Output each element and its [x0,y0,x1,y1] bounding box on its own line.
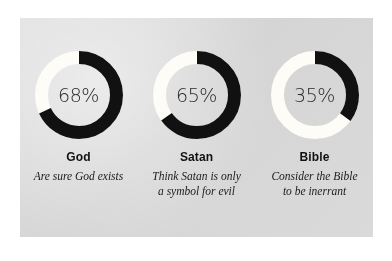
donut-description-line: to be inerrant [271,184,357,199]
donut-column-satan: 65% Satan Think Satan is only a symbol f… [138,18,255,199]
donut-description-line: Consider the Bible [271,169,357,184]
donut-description-line: a symbol for evil [152,184,241,199]
donut-label-satan: Satan [180,151,213,164]
donut-description-god: Are sure God exists [34,169,124,184]
donut-percent-bible: 35% [271,51,359,139]
donut-percent-god: 68% [35,51,123,139]
donut-description-line: Think Satan is only [152,169,241,184]
donut-description-satan: Think Satan is only a symbol for evil [152,169,241,198]
donut-label-god: God [66,151,90,164]
donut-percent-satan: 65% [153,51,241,139]
donut-description-line: Are sure God exists [34,169,124,184]
donut-chart-god: 68% [35,51,123,139]
donut-label-bible: Bible [300,151,330,164]
donut-chart-satan: 65% [153,51,241,139]
donut-columns: 68% God Are sure God exists 65% Satan Th… [20,18,373,237]
donut-column-bible: 35% Bible Consider the Bible to be inerr… [256,18,373,199]
donut-chart-bible: 35% [271,51,359,139]
infographic-figure: 68% God Are sure God exists 65% Satan Th… [0,0,392,261]
donut-column-god: 68% God Are sure God exists [20,18,137,184]
donut-description-bible: Consider the Bible to be inerrant [271,169,357,198]
